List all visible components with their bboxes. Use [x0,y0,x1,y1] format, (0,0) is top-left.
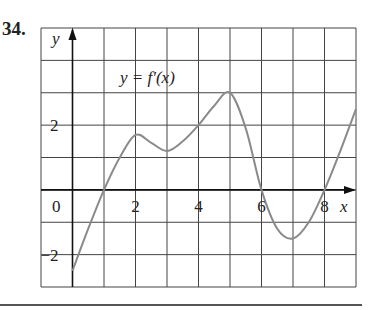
x-tick-label: 8 [320,197,329,216]
x-axis-label: x [339,197,348,216]
curve-label: y = f′(x) [118,68,175,87]
x-tick-label: 2 [131,197,140,216]
x-tick-label: 4 [194,197,203,216]
y-tick-label: −2 [40,246,58,265]
y-axis-label: y [50,29,60,48]
grid-lines [41,28,356,287]
x-tick-label: 6 [257,197,266,216]
origin-label: 0 [52,197,61,216]
derivative-curve [73,92,357,271]
derivative-graph: 24682−20 y = f′(x) y x [0,0,368,300]
section-divider [0,304,362,306]
y-tick-label: 2 [50,116,59,135]
